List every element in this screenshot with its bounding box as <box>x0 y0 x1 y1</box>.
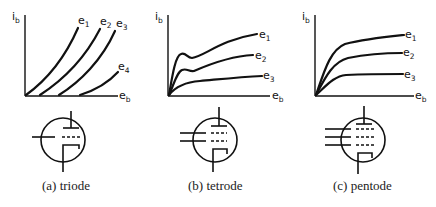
pentode-cathode <box>358 153 372 174</box>
triode-caption: (a) triode <box>42 178 90 193</box>
tetrode-curve-e3 <box>169 76 262 95</box>
triode-curve-e3 <box>59 31 115 95</box>
triode-curve-e1-label: e1 <box>78 14 90 29</box>
pentode-graph: ib eb e1 e2 e3 <box>302 10 427 104</box>
pentode-curve-e3-label: e3 <box>404 68 416 83</box>
tetrode-curve-e2-label: e2 <box>255 49 267 64</box>
triode-cathode <box>63 145 79 172</box>
pentode-symbol <box>325 106 385 174</box>
triode-y-axis-label: ib <box>12 10 20 25</box>
tetrode-envelope <box>193 118 237 162</box>
triode-curve-e4 <box>80 72 118 95</box>
pentode-curve-e1-label: e1 <box>405 28 417 43</box>
triode-curve-e2-label: e2 <box>100 15 112 30</box>
tetrode-curve-e2 <box>169 55 253 95</box>
tetrode-curve-e3-label: e3 <box>263 69 275 84</box>
pentode-y-axis-label: ib <box>302 10 310 25</box>
triode-symbol <box>32 111 85 172</box>
tetrode-curve-e1-label: e1 <box>259 28 271 43</box>
pentode-x-axis-label: eb <box>415 89 427 104</box>
pentode-curve-e1 <box>316 35 404 95</box>
triode-curve-e1 <box>26 28 78 95</box>
tetrode-graph: ib eb e1 e2 e3 <box>155 10 284 104</box>
tetrode-symbol <box>180 107 237 172</box>
triode-curve-e4-label: e4 <box>118 60 130 75</box>
triode-curve-e3-label: e3 <box>116 17 128 32</box>
triode-panel: ib eb e1 e2 e3 e4 (a) triode <box>12 10 131 193</box>
pentode-panel: ib eb e1 e2 e3 (c) pentode <box>302 10 427 193</box>
tetrode-caption: (b) tetrode <box>188 178 243 193</box>
vacuum-tube-characteristics-figure: ib eb e1 e2 e3 e4 (a) triode ib eb <box>0 0 436 207</box>
tetrode-y-axis-label: ib <box>155 10 163 25</box>
triode-x-axis-label: eb <box>119 89 131 104</box>
pentode-curve-e3 <box>316 74 403 95</box>
tetrode-x-axis-label: eb <box>272 89 284 104</box>
pentode-curve-e2-label: e2 <box>403 46 415 61</box>
tetrode-panel: ib eb e1 e2 e3 (b) tetrode <box>155 10 284 193</box>
triode-curve-e2 <box>40 29 100 95</box>
triode-graph: ib eb e1 e2 e3 e4 <box>12 10 131 104</box>
pentode-caption: (c) pentode <box>333 178 392 193</box>
